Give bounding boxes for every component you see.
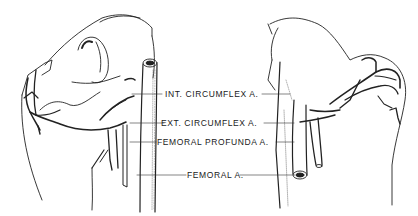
left-femur-illustration [22,15,157,212]
anatomical-diagram [0,0,418,216]
label-ext-circumflex-artery: EXT. CIRCUMFLEX A. [161,118,257,128]
right-femur-illustration [268,18,406,208]
label-int-circumflex-artery: INT. CIRCUMFLEX A. [165,89,258,99]
label-femoral-artery: FEMORAL A. [187,170,244,180]
label-femoral-profunda-artery: FEMORAL PROFUNDA A. [157,137,269,147]
